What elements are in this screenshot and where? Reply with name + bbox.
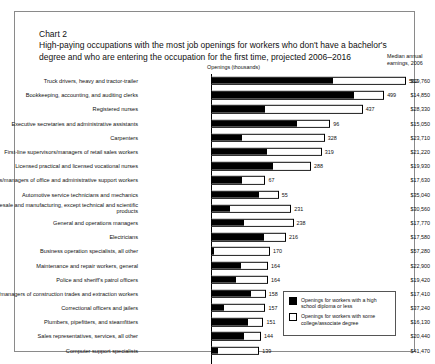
bar-value-label: 319 (325, 149, 334, 155)
chart-row: Computer support specialists139$41,470 (72, 344, 428, 358)
bar-segment-high-school (212, 333, 244, 339)
stacked-bar (211, 190, 279, 198)
bar-segment-high-school (212, 319, 248, 325)
bar-segment-high-school (212, 120, 297, 126)
bar-segment-some-college (230, 206, 291, 212)
stacked-bar (211, 162, 311, 170)
bar-segment-some-college (267, 149, 321, 155)
occupation-label: First-line supervisors/managers of offic… (0, 177, 138, 184)
stacked-bar (211, 233, 286, 241)
legend-item-some-college: Openings for workers with some college/a… (289, 313, 391, 325)
stacked-bar (211, 91, 384, 99)
chart-row: Truck drivers, heavy and tractor-trailer… (72, 74, 428, 88)
bar-segment-some-college (241, 262, 266, 268)
occupation-label: Electricians (0, 234, 138, 240)
median-earnings-value: $14,850 (388, 92, 430, 98)
bar-segment-high-school (212, 191, 259, 197)
stacked-bar (211, 276, 268, 284)
stacked-bar (211, 77, 406, 85)
bar-value-label: 328 (328, 135, 337, 141)
occupation-label: Sales representatives, wholesale and man… (0, 202, 138, 215)
bar-segment-some-college (224, 305, 264, 311)
median-earnings-value: $17,630 (388, 177, 430, 183)
bar-value-label: 139 (262, 348, 271, 354)
bar-value-label: 144 (264, 333, 273, 339)
median-earnings-value: $30,560 (388, 206, 430, 212)
bar-segment-some-college (236, 277, 267, 283)
chart-row: Licensed practical and licensed vocation… (72, 159, 428, 173)
occupation-label: Sales representatives, services, all oth… (0, 333, 138, 339)
bar-value-label: 164 (271, 263, 280, 269)
legend-item-high-school: Openings for workers with a high school … (289, 297, 391, 309)
bar-segment-some-college (248, 319, 263, 325)
stacked-bar (211, 290, 266, 298)
occupation-label: Automotive service technicians and mecha… (0, 191, 138, 198)
stacked-bar (211, 148, 322, 156)
chart-row: Automotive service technicians and mecha… (72, 188, 428, 202)
chart-row: Bookkeeping, accounting, and auditing cl… (72, 88, 428, 102)
stacked-bar (211, 219, 294, 227)
median-earnings-value: $35,040 (388, 192, 430, 198)
bar-segment-high-school (212, 234, 264, 240)
bar-segment-high-school (212, 78, 333, 84)
bar-segment-high-school (212, 177, 242, 183)
median-earnings-value: $17,770 (388, 220, 430, 226)
bar-value-label: 288 (314, 163, 323, 169)
bar-value-label: 96 (333, 121, 339, 127)
bar-segment-some-college (218, 347, 258, 353)
occupation-label: Computer support specialists (0, 347, 138, 353)
legend-swatch-black-icon (289, 297, 297, 305)
bar-value-label: 231 (294, 206, 303, 212)
bar-segment-some-college (273, 163, 310, 169)
bar-segment-some-college (244, 220, 292, 226)
legend-label-some-college: Openings for workers with some college/a… (301, 313, 391, 325)
bar-segment-some-college (214, 248, 269, 254)
bar-value-label: 67 (268, 177, 274, 183)
occupation-label: First-line supervisors/managers of const… (0, 291, 138, 298)
stacked-bar (211, 318, 263, 326)
bar-segment-some-college (354, 92, 383, 98)
chart-legend: Openings for workers with a high school … (283, 291, 396, 336)
bar-value-label: 437 (366, 106, 375, 112)
bar-segment-high-school (212, 135, 242, 141)
chart-row: Maintenance and repair workers, general1… (72, 258, 428, 272)
bar-value-label: 157 (268, 305, 277, 311)
bar-segment-high-school (212, 206, 230, 212)
median-earnings-value: $23,710 (388, 135, 430, 141)
bar-value-label: 170 (273, 248, 282, 254)
bar-segment-high-school (212, 149, 267, 155)
occupation-label: Plumbers, pipefitters, and steamfitters (0, 319, 138, 325)
chart-row: Executive secretaries and administrative… (72, 117, 428, 131)
median-earnings-value: $17,580 (388, 234, 430, 240)
bar-value-label: 55 (282, 192, 288, 198)
median-earnings-value: $21,220 (388, 149, 430, 155)
occupation-label: Carpenters (0, 135, 138, 141)
median-earnings-value: $15,050 (388, 121, 430, 127)
occupation-label: Police and sheriff's patrol officers (0, 277, 138, 283)
chart-row: First-line supervisors/managers of offic… (72, 173, 428, 187)
median-earnings-value: $19,760 (388, 78, 430, 84)
bar-value-label: 151 (266, 319, 275, 325)
occupation-label: Registered nurses (0, 106, 138, 112)
occupation-label: Bookkeeping, accounting, and auditing cl… (0, 92, 138, 99)
bar-segment-high-school (212, 277, 236, 283)
bar-segment-some-college (264, 234, 285, 240)
stacked-bar (211, 205, 291, 213)
earnings-column-header: Median annual earnings, 2006 (387, 53, 435, 67)
openings-column-header: Openings (thousands) (207, 64, 260, 70)
occupation-label: First-line supervisors/managers of retai… (0, 149, 138, 156)
chart-number: Chart 2 (39, 29, 67, 39)
bar-segment-high-school (212, 262, 241, 268)
bar-value-label: 164 (271, 277, 280, 283)
bar-value-label: 238 (297, 220, 306, 226)
occupation-label: General and operations managers (0, 220, 138, 226)
stacked-bar (211, 176, 265, 184)
bar-segment-some-college (242, 177, 264, 183)
median-earnings-value: $41,470 (388, 348, 430, 354)
occupation-label: Maintenance and repair workers, general (0, 262, 138, 268)
bar-value-label: 216 (289, 234, 298, 240)
bar-segment-high-school (212, 220, 244, 226)
bar-segment-high-school (212, 291, 251, 297)
occupation-label: Business operation specialists, all othe… (0, 248, 138, 254)
stacked-bar (211, 134, 325, 142)
